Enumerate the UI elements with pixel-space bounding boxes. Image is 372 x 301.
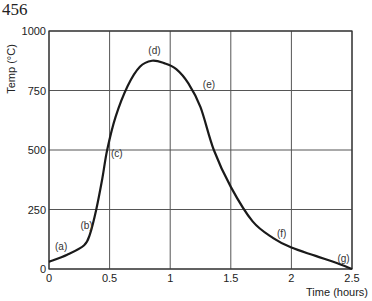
temperature-curve [49, 61, 352, 269]
y-tick-label: 750 [28, 85, 46, 97]
point-annotation: (a) [55, 241, 67, 252]
x-axis-label: Time (hours) [306, 286, 368, 298]
point-annotation: (b) [80, 220, 92, 231]
point-annotation: (c) [111, 148, 123, 159]
x-tick-label: 1.5 [223, 272, 238, 284]
y-tick-label: 1000 [22, 25, 46, 37]
y-tick-label: 250 [28, 204, 46, 216]
x-tick-label: 2 [288, 272, 294, 284]
x-tick-label: 0.5 [102, 272, 117, 284]
y-tick-label: 500 [28, 144, 46, 156]
point-annotation: (d) [148, 45, 160, 56]
y-tick-label: 0 [40, 263, 46, 275]
point-annotation: (f) [277, 228, 286, 239]
point-annotation: (e) [203, 79, 215, 90]
x-tick-label: 2.5 [344, 272, 359, 284]
y-axis-label: Temp (°C) [5, 44, 17, 94]
x-tick-label: 0 [46, 272, 52, 284]
temperature-time-chart: 00.511.522.502505007501000Time (hours)Te… [0, 0, 372, 301]
x-tick-label: 1 [167, 272, 173, 284]
point-annotation: (g) [337, 253, 349, 264]
